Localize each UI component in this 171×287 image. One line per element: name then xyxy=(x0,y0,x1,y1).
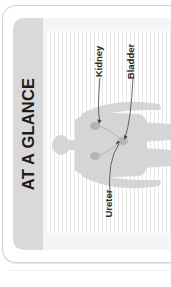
kidney-label: Kidney xyxy=(93,46,104,78)
panel-title: AT A GLANCE xyxy=(19,78,38,191)
divider xyxy=(10,270,171,271)
body-silhouette-icon xyxy=(52,102,171,189)
ureter-label: Ureter xyxy=(103,190,114,218)
bladder-icon xyxy=(118,137,128,145)
bladder-label: Bladder xyxy=(125,44,136,79)
at-a-glance-panel: AT A GLANCE xyxy=(13,18,171,250)
